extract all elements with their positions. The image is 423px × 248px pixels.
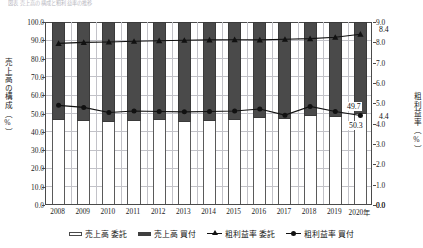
y-axis-right-tick-mark: [373, 22, 376, 23]
bar-segment-sales-itaku: [329, 116, 342, 204]
bar-group: [304, 22, 317, 204]
bar-group: [278, 22, 291, 204]
bar-segment-sales-kaitsuke: [354, 22, 367, 114]
solid-bar-swatch: [138, 232, 151, 236]
y-axis-right-tick-label: 3.0: [376, 140, 408, 149]
y-axis-right-tick-label: 0.0: [376, 201, 408, 210]
y-axis-right-tick-label: 1.0: [376, 181, 408, 190]
legend-item-label: 粗利益率 委託: [225, 228, 275, 239]
callout-gross-margin-itaku-end: 8.4: [378, 25, 390, 34]
y-axis-right-tick-label: 7.0: [376, 59, 408, 68]
chart-legend: 売上高 委託売上高 買付粗利益率 委託粗利益率 買付: [0, 228, 423, 239]
y-axis-right-tick-mark: [373, 164, 376, 165]
gridline-vertical: [71, 22, 72, 204]
gridline-vertical: [147, 22, 148, 204]
bar-segment-sales-kaitsuke: [77, 22, 90, 121]
gridline-vertical: [121, 22, 122, 204]
plot-area: [45, 22, 372, 205]
y-axis-right-tick-mark: [373, 144, 376, 145]
gridline-vertical: [96, 22, 97, 204]
bar-segment-sales-kaitsuke: [52, 22, 65, 120]
gridline-vertical: [272, 22, 273, 204]
legend-item[interactable]: 売上高 委託: [69, 228, 127, 239]
bar-segment-sales-itaku: [153, 119, 166, 204]
gridline-vertical: [222, 22, 223, 204]
bar-group: [329, 22, 342, 204]
figure-caption: 図表 売上高の構成と粗利益率の推移: [8, 0, 208, 7]
circle-line-swatch: [286, 230, 301, 237]
y-axis-left-tick-mark: [42, 205, 45, 206]
gridline-vertical: [323, 22, 324, 204]
gridline-vertical: [298, 22, 299, 204]
legend-item-label: 粗利益率 買付: [304, 228, 354, 239]
y-axis-left-tick-label: 40.0: [10, 128, 44, 137]
y-axis-right-tick-label: 6.0: [376, 79, 408, 88]
hollow-bar-swatch: [69, 232, 82, 236]
bar-group: [52, 22, 65, 204]
y-axis-left-tick-label: 90.0: [10, 36, 44, 45]
y-axis-right-tick-label: 4.0: [376, 120, 408, 129]
y-axis-right-tick-mark: [373, 124, 376, 125]
bar-segment-sales-itaku: [127, 120, 140, 204]
y-axis-right-tick-label: 2.0: [376, 160, 408, 169]
bar-segment-sales-itaku: [278, 118, 291, 204]
bar-group: [153, 22, 166, 204]
bar-segment-sales-itaku: [77, 120, 90, 204]
bar-segment-sales-itaku: [304, 115, 317, 204]
y-axis-left-tick-label: 50.0: [10, 110, 44, 119]
bar-segment-sales-kaitsuke: [228, 22, 241, 120]
x-axis-tick-label: 2020年: [344, 207, 375, 217]
bar-group: [77, 22, 90, 204]
bar-group: [253, 22, 266, 204]
bar-segment-sales-kaitsuke: [127, 22, 140, 121]
y-axis-right-title: 粗利益率（%）: [411, 92, 422, 153]
y-axis-left-tick-label: 100.0: [10, 18, 44, 27]
y-axis-left-tick-label: 30.0: [10, 146, 44, 155]
y-axis-right-tick-mark: [373, 42, 376, 43]
bar-group: [203, 22, 216, 204]
bar-segment-sales-kaitsuke: [329, 22, 342, 117]
y-axis-left-tick-label: 10.0: [10, 183, 44, 192]
bar-segment-sales-kaitsuke: [153, 22, 166, 120]
bar-segment-sales-kaitsuke: [253, 22, 266, 118]
callout-gross-margin-kaitsuke-end: 4.4: [378, 112, 390, 121]
bar-segment-sales-itaku: [178, 121, 191, 204]
bar-segment-sales-kaitsuke: [278, 22, 291, 119]
legend-item[interactable]: 粗利益率 委託: [207, 228, 275, 239]
y-axis-left-tick-label: 0.0: [10, 201, 44, 210]
bar-group: [127, 22, 140, 204]
callout-sales-itaku-end: 49.7: [346, 102, 362, 111]
callout-sales-kaitsuke-end: 50.3: [348, 121, 364, 130]
bar-segment-sales-kaitsuke: [203, 22, 216, 121]
bar-group: [354, 22, 367, 204]
y-axis-right-tick-mark: [373, 83, 376, 84]
y-axis-left-tick-label: 20.0: [10, 164, 44, 173]
gridline-vertical: [197, 22, 198, 204]
y-axis-right-tick-label: 8.0: [376, 38, 408, 47]
bar-segment-sales-itaku: [52, 119, 65, 204]
y-axis-left-tick-label: 60.0: [10, 91, 44, 100]
chart-figure: 図表 売上高の構成と粗利益率の推移 売上高の構成（%） 粗利益率（%） 100.…: [0, 0, 423, 248]
gridline-vertical: [247, 22, 248, 204]
bar-segment-sales-itaku: [102, 121, 115, 204]
bar-group: [178, 22, 191, 204]
bar-segment-sales-itaku: [203, 120, 216, 204]
y-axis-right-tick-label: 5.0: [376, 99, 408, 108]
legend-item[interactable]: 粗利益率 買付: [286, 228, 354, 239]
bar-segment-sales-kaitsuke: [102, 22, 115, 122]
bar-group: [102, 22, 115, 204]
bar-group: [228, 22, 241, 204]
y-axis-right-tick-mark: [373, 103, 376, 104]
legend-item[interactable]: 売上高 買付: [138, 228, 196, 239]
y-axis-left-tick-label: 80.0: [10, 55, 44, 64]
bar-segment-sales-itaku: [253, 117, 266, 204]
triangle-line-swatch: [207, 230, 222, 237]
bar-segment-sales-kaitsuke: [304, 22, 317, 116]
gridline-vertical: [172, 22, 173, 204]
bar-segment-sales-kaitsuke: [178, 22, 191, 122]
bar-segment-sales-itaku: [228, 119, 241, 204]
y-axis-right-tick-mark: [373, 63, 376, 64]
y-axis-left-tick-label: 70.0: [10, 73, 44, 82]
legend-item-label: 売上高 買付: [154, 228, 196, 239]
y-axis-right-tick-mark: [373, 185, 376, 186]
